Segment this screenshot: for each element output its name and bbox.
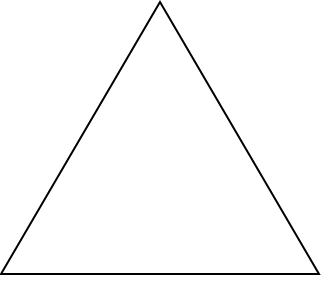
triangle-figure bbox=[0, 0, 333, 282]
diagram-canvas bbox=[0, 0, 333, 282]
triangle-shape bbox=[1, 2, 319, 274]
